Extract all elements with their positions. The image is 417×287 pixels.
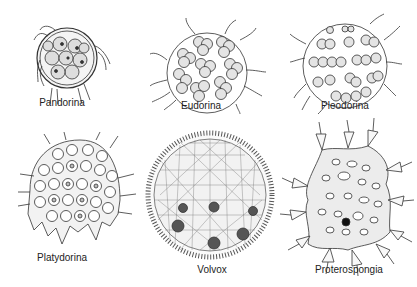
label-volvox: Volvox xyxy=(197,264,226,275)
label-pleodorina: Pleodorina xyxy=(321,100,369,111)
pandorina-drawing xyxy=(34,26,110,104)
illustration-canvas xyxy=(0,0,417,287)
pleodorina-drawing xyxy=(290,14,402,114)
label-platydorina: Platydorina xyxy=(37,252,87,263)
label-pandorina: Pandorina xyxy=(39,97,85,108)
label-eudorina: Eudorina xyxy=(181,100,221,111)
volvox-drawing xyxy=(148,133,272,257)
proterospongia-drawing xyxy=(280,118,414,276)
label-proterospongia: Proterospongia xyxy=(315,264,383,275)
platydorina-drawing xyxy=(18,132,136,244)
